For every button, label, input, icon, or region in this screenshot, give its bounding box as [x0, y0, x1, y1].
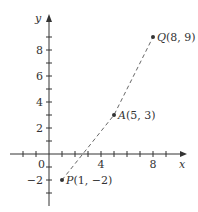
- x-axis-arrow-icon: [180, 151, 187, 157]
- point-marker-icon: [112, 113, 116, 117]
- coordinate-plane: 48 2468−2 0 x y P(1, −2)A(5, 3)Q(8, 9): [0, 0, 198, 212]
- origin-label: 0: [38, 158, 45, 171]
- point-p: P(1, −2): [60, 174, 112, 187]
- y-tick-label: 8: [36, 44, 43, 57]
- y-axis-label: y: [34, 12, 42, 25]
- y-tick-label: 4: [36, 96, 43, 109]
- point-label: P(1, −2): [65, 174, 112, 187]
- x-tick-labels: 48: [98, 158, 157, 171]
- y-tick-label: 2: [36, 122, 43, 135]
- point-marker-icon: [151, 35, 155, 39]
- point-label: A(5, 3): [117, 109, 156, 122]
- point-q: Q(8, 9): [151, 31, 196, 44]
- y-tick-label: 6: [36, 70, 43, 83]
- point-marker-icon: [60, 178, 64, 182]
- y-tick-label: −2: [27, 174, 43, 187]
- points: P(1, −2)A(5, 3)Q(8, 9): [60, 31, 196, 187]
- x-axis-label: x: [179, 158, 186, 171]
- y-axis-arrow-icon: [46, 14, 52, 22]
- point-label: Q(8, 9): [157, 31, 196, 44]
- x-tick-label: 4: [98, 158, 105, 171]
- x-tick-label: 8: [150, 158, 157, 171]
- point-a: A(5, 3): [112, 109, 156, 122]
